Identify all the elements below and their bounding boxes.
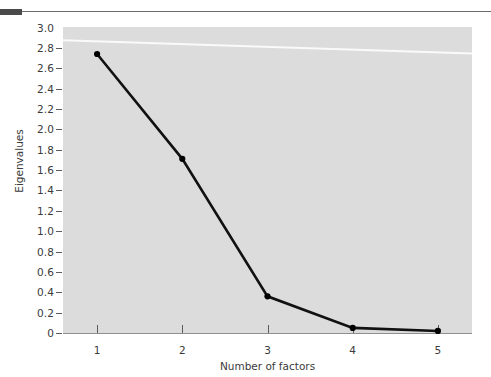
data-point-marker <box>350 325 356 331</box>
data-series-layer <box>0 0 491 377</box>
data-point-marker <box>179 156 185 162</box>
series-markers <box>94 51 441 334</box>
data-point-marker <box>264 293 270 299</box>
series-line-eigenvalues <box>97 54 438 331</box>
scree-plot-figure: 3.02.82.62.42.22.01.81.61.41.21.00.80.60… <box>0 0 491 377</box>
data-point-marker <box>435 328 441 334</box>
data-point-marker <box>94 51 100 57</box>
